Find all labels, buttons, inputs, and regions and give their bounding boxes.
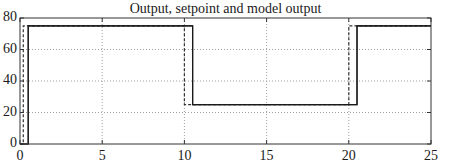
chart-container: Output, setpoint and model output 020406…: [0, 0, 458, 166]
y-tick-label: 40: [0, 73, 17, 87]
y-tick-label: 80: [0, 10, 17, 24]
series-line-model-output: [20, 26, 431, 144]
x-tick-label: 0: [5, 148, 35, 164]
x-tick-label: 15: [252, 148, 282, 164]
x-tick-label: 25: [416, 148, 446, 164]
x-tick-label: 10: [169, 148, 199, 164]
series-line-setpoint: [20, 26, 431, 144]
x-tick-label: 20: [334, 148, 364, 164]
x-tick-label: 5: [87, 148, 117, 164]
y-tick-label: 60: [0, 42, 17, 56]
axes-box: [20, 18, 431, 144]
series-line-output: [20, 26, 431, 144]
plot-area: [0, 0, 458, 166]
y-tick-label: 20: [0, 105, 17, 119]
